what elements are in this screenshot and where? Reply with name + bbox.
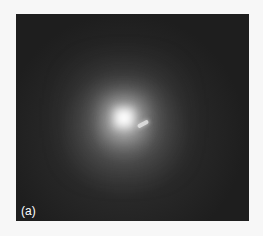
galaxy-halo [16, 14, 249, 221]
panel-label: (a) [21, 204, 36, 218]
galaxy-image: (a) [16, 14, 249, 221]
